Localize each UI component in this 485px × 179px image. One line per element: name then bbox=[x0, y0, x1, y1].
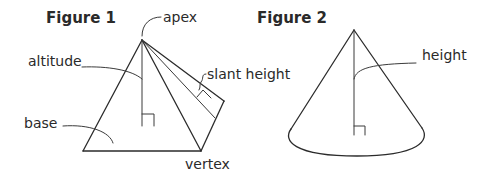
figure-2-title: Figure 2 bbox=[257, 11, 327, 26]
slant-height-label: slant height bbox=[207, 67, 290, 81]
altitude-label: altitude bbox=[28, 54, 82, 68]
pyramid-right-base-edge bbox=[201, 101, 224, 151]
cone-height-right-angle bbox=[354, 126, 365, 135]
base-label: base bbox=[24, 116, 57, 130]
slant-height-right-angle bbox=[197, 90, 211, 98]
figure-1-title: Figure 1 bbox=[46, 11, 116, 26]
height-leader bbox=[354, 63, 416, 79]
altitude-leader bbox=[82, 67, 142, 79]
pyramid-figure bbox=[63, 17, 224, 151]
pyramid-front-right-edge bbox=[142, 40, 201, 151]
slant-height-line bbox=[142, 40, 215, 118]
pyramid-left-edge bbox=[83, 40, 142, 151]
apex-leader bbox=[142, 17, 161, 36]
altitude-right-angle bbox=[142, 114, 154, 126]
height-label: height bbox=[422, 48, 467, 62]
cone-right-edge bbox=[354, 30, 422, 128]
diagram-canvas: Figure 1 apex altitude slant height base… bbox=[0, 0, 485, 179]
vertex-label: vertex bbox=[185, 157, 230, 171]
cone-left-edge bbox=[291, 30, 354, 129]
cone-figure bbox=[289, 30, 425, 156]
apex-label: apex bbox=[163, 10, 197, 24]
cone-base-ellipse bbox=[289, 128, 425, 156]
